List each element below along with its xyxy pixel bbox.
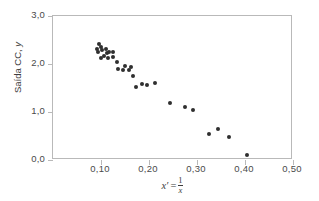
data-point	[111, 50, 115, 54]
x-axis-tick-label: 0,10	[80, 164, 120, 174]
data-point	[216, 127, 220, 131]
y-axis-tick-labels: 0,01,02,03,0	[0, 15, 45, 159]
x-axis-title: x′=1x	[52, 177, 292, 195]
data-point	[140, 82, 144, 86]
x-axis-tick-label: 0,30	[176, 164, 216, 174]
y-axis-tick-mark	[48, 160, 53, 161]
data-point	[116, 67, 120, 71]
y-axis-tick-mark	[48, 16, 53, 17]
data-point	[168, 101, 172, 105]
equals-sign: =	[168, 180, 178, 191]
x-axis-tick-label: 0,20	[128, 164, 168, 174]
data-point	[99, 56, 103, 60]
y-axis-title-text: Saída CC,	[12, 47, 23, 93]
fraction-denominator: x	[178, 186, 182, 194]
data-point	[129, 65, 133, 69]
data-point	[191, 108, 195, 112]
data-point	[227, 135, 231, 139]
data-point	[115, 60, 119, 64]
data-point	[134, 85, 138, 89]
plot-frame	[52, 15, 292, 159]
x-axis-tick-label: 0,50	[272, 164, 312, 174]
data-point	[106, 56, 110, 60]
fraction-numerator: 1	[178, 176, 182, 184]
y-axis-tick-label: 1,0	[1, 106, 45, 116]
plot-data-area	[53, 16, 291, 158]
y-axis-title: Saída CC, y	[12, 13, 23, 123]
x-axis-title-expression: x′=1x	[161, 177, 182, 195]
data-point	[121, 68, 125, 72]
data-point	[123, 64, 127, 68]
data-point	[183, 105, 187, 109]
y-axis-tick-label: 0,0	[1, 154, 45, 164]
data-point	[111, 55, 115, 59]
data-point	[207, 132, 211, 136]
y-axis-tick-mark	[48, 64, 53, 65]
fraction-one-over-x: 1x	[178, 176, 182, 194]
data-point	[245, 153, 249, 157]
y-axis-tick-mark	[48, 112, 53, 113]
y-axis-tick-label: 3,0	[1, 10, 45, 20]
x-axis-tick-label: 0,40	[224, 164, 264, 174]
scatter-chart-figure: 0,01,02,03,0 Saída CC, y 0,100,200,300,4…	[0, 0, 319, 201]
y-axis-title-variable: y	[12, 42, 23, 47]
data-point	[145, 83, 149, 87]
data-point	[153, 81, 157, 85]
y-axis-tick-label: 2,0	[1, 58, 45, 68]
x-axis-tick-labels: 0,100,200,300,400,50	[52, 164, 292, 176]
data-point	[131, 74, 135, 78]
